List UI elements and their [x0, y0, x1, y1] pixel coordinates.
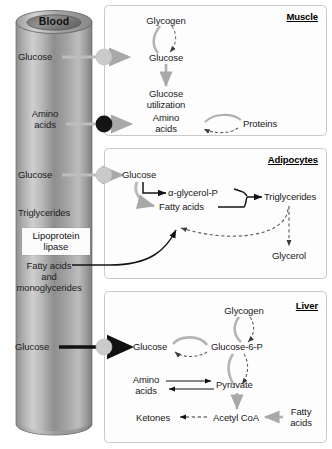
vessel-label-fatty-line3: monoglycerides — [16, 282, 81, 293]
blood-vessel-graphic — [16, 11, 92, 436]
liver-node-pyruvate: Pyruvate — [216, 379, 253, 390]
liver-node-amino-line2: acids — [135, 385, 157, 396]
liver-node-glucose: Glucose — [133, 341, 167, 352]
vessel-label-glucose-liver: Glucose — [15, 341, 49, 352]
vessel-label-fatty-line1: Fatty acids — [27, 260, 72, 271]
vessel-label-glucose-adipocyte: Glucose — [18, 169, 52, 180]
liver-node-fatty-line1: Fatty — [291, 406, 312, 417]
muscle-node-amino-line2: acids — [155, 123, 177, 134]
liver-node-amino-line1: Amino — [133, 374, 159, 385]
panel-title-adipocytes: Adipocytes — [268, 154, 318, 165]
vessel-label-glucose-muscle: Glucose — [18, 51, 52, 62]
vessel-label-fatty-line2: and — [41, 271, 57, 282]
vessel-label-amino-line1: Amino — [32, 108, 58, 119]
adipocytes-node-glucose: Glucose — [122, 169, 156, 180]
adipocytes-node-glycerol: Glycerol — [272, 250, 306, 261]
muscle-node-glucose-utilization-line2: utilization — [147, 99, 186, 110]
muscle-node-proteins: Proteins — [243, 118, 277, 129]
liver-node-acetyl-coa: Acetyl CoA — [213, 412, 259, 423]
adipocytes-node-triglycerides: Triglycerides — [264, 191, 316, 202]
liver-node-fatty-line2: acids — [290, 417, 312, 428]
vessel-label-triglycerides: Triglycerides — [18, 207, 70, 218]
adipocytes-node-fatty-acids: Fatty acids — [159, 201, 204, 212]
muscle-node-glucose-utilization-line1: Glucose — [149, 88, 183, 99]
muscle-node-glycogen: Glycogen — [146, 15, 185, 26]
vessel-title: Blood — [39, 16, 70, 27]
muscle-node-amino-line1: Amino — [153, 112, 179, 123]
lipoprotein-lipase-line2: lipase — [26, 241, 86, 252]
panel-title-liver: Liver — [296, 300, 318, 311]
vessel-label-amino-line2: acids — [34, 119, 56, 130]
figure-canvas: Glucose (dashed) --> Glycerol (vertical … — [0, 0, 332, 449]
diagram-svg: Glucose (dashed) --> Glycerol (vertical … — [0, 0, 332, 449]
lipoprotein-lipase-box: Lipoprotein lipase — [22, 228, 90, 255]
liver-node-glycogen: Glycogen — [224, 305, 263, 316]
panel-title-muscle: Muscle — [286, 11, 318, 22]
muscle-node-glucose: Glucose — [149, 52, 183, 63]
adipocytes-node-alpha-glycerol-p: α-glycerol-P — [168, 187, 218, 198]
lipoprotein-lipase-line1: Lipoprotein — [26, 230, 86, 241]
liver-node-glucose-6-p: Glucose-6-P — [211, 341, 263, 352]
liver-node-ketones: Ketones — [136, 412, 170, 423]
